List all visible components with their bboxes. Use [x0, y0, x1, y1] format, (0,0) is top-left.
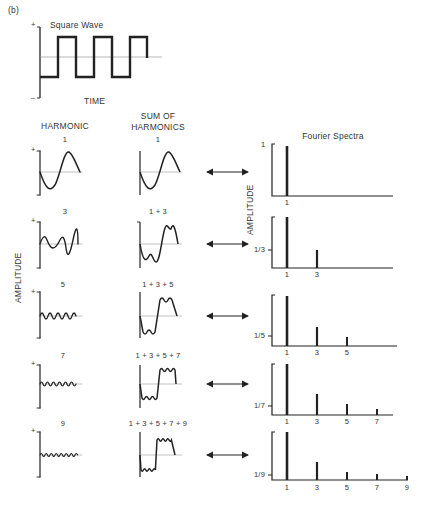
spectra-xtick: 1 — [285, 417, 289, 426]
fourier-spectra-header: Fourier Spectra — [302, 131, 364, 141]
square-wave-plot — [37, 27, 162, 98]
sum-label-4: 1 + 3 + 5 + 7 — [136, 351, 181, 360]
spectra-xtick: 1 — [285, 198, 289, 207]
fourier-spectra-plots — [268, 144, 408, 480]
spectra-xtick: 5 — [345, 417, 349, 426]
harmonic-plots — [37, 151, 82, 477]
harmonic-label-5: 5 — [61, 280, 65, 289]
spectra-xtick: 1 — [285, 483, 289, 492]
sum-label-2: 1 + 3 — [149, 207, 167, 216]
figure-canvas — [0, 0, 424, 506]
sum-label-3: 1 + 3 + 5 — [142, 280, 173, 289]
square-wave-minus: – — [31, 93, 35, 102]
sum-column-header-line2: HARMONICS — [131, 122, 185, 132]
square-wave-plus: + — [31, 20, 36, 29]
spectra-ytick-1-5: 1/5 — [254, 331, 265, 340]
harmonic-label-1: 1 — [63, 135, 67, 144]
panel-label: (b) — [8, 5, 19, 15]
harmonic-label-7: 7 — [61, 351, 65, 360]
spectra-ytick-1: 1 — [261, 140, 265, 149]
spectra-xtick: 5 — [345, 348, 349, 357]
spectra-xtick: 7 — [375, 483, 379, 492]
spectra-xtick: 3 — [315, 483, 319, 492]
spectra-xtick: 3 — [315, 348, 319, 357]
sum-label-1: 1 — [156, 135, 160, 144]
time-axis-label: TIME — [84, 96, 105, 106]
sum-label-5: 1 + 3 + 5 + 7 + 9 — [129, 419, 187, 428]
spectra-ytick-1-9: 1/9 — [254, 470, 265, 479]
amplitude-label-left: AMPLITUDE — [13, 253, 23, 303]
spectra-xtick: 5 — [345, 483, 349, 492]
correspondence-arrows — [207, 172, 248, 455]
harmonic-column-header: HARMONIC — [41, 121, 89, 131]
spectra-ytick-1-7: 1/7 — [254, 401, 265, 410]
spectra-xtick: 7 — [375, 417, 379, 426]
sum-of-harmonics-plots — [137, 151, 182, 477]
sum-column-header-line1: SUM OF — [141, 111, 175, 121]
spectra-ytick-1-3: 1/3 — [254, 245, 265, 254]
amplitude-label-right: AMPLITUDE — [245, 185, 255, 235]
harmonic-label-9: 9 — [61, 419, 65, 428]
spectra-xtick: 3 — [315, 270, 319, 279]
spectra-xtick: 1 — [285, 270, 289, 279]
harmonic-label-3: 3 — [63, 207, 67, 216]
square-wave-title: Square Wave — [50, 20, 103, 30]
spectra-xtick: 9 — [405, 483, 409, 492]
spectra-xtick: 1 — [285, 348, 289, 357]
spectra-xtick: 3 — [315, 417, 319, 426]
